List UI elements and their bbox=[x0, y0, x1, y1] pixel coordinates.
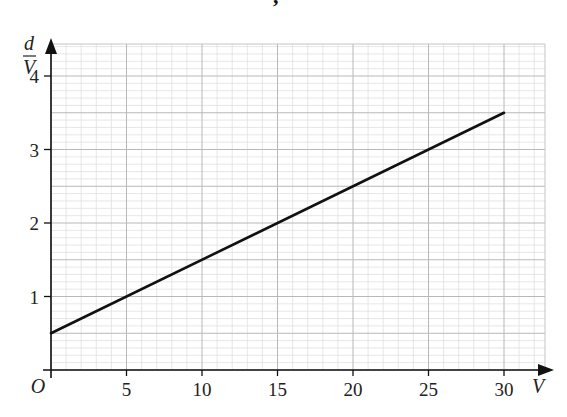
y-axis-label-numerator: d bbox=[24, 32, 35, 54]
ticks: 510152025301234 bbox=[30, 66, 514, 400]
x-tick-label: 25 bbox=[419, 379, 438, 400]
y-tick-label: 1 bbox=[30, 287, 40, 308]
y-tick-label: 3 bbox=[30, 140, 40, 161]
grid-minor bbox=[51, 44, 545, 370]
x-axis-label: V bbox=[532, 375, 547, 397]
x-tick-label: 15 bbox=[268, 379, 287, 400]
x-tick-label: 30 bbox=[495, 379, 514, 400]
y-tick-label: 2 bbox=[30, 213, 40, 234]
grid-major bbox=[51, 44, 545, 370]
x-tick-label: 5 bbox=[122, 379, 132, 400]
artifact-glyph: , bbox=[273, 0, 279, 8]
y-axis-arrow-icon bbox=[45, 38, 57, 54]
chart: 510152025301234 d V V O , bbox=[0, 0, 567, 417]
x-tick-label: 10 bbox=[193, 379, 212, 400]
labels: d V V O , bbox=[23, 0, 547, 397]
x-tick-label: 20 bbox=[344, 379, 363, 400]
origin-label: O bbox=[31, 375, 45, 397]
